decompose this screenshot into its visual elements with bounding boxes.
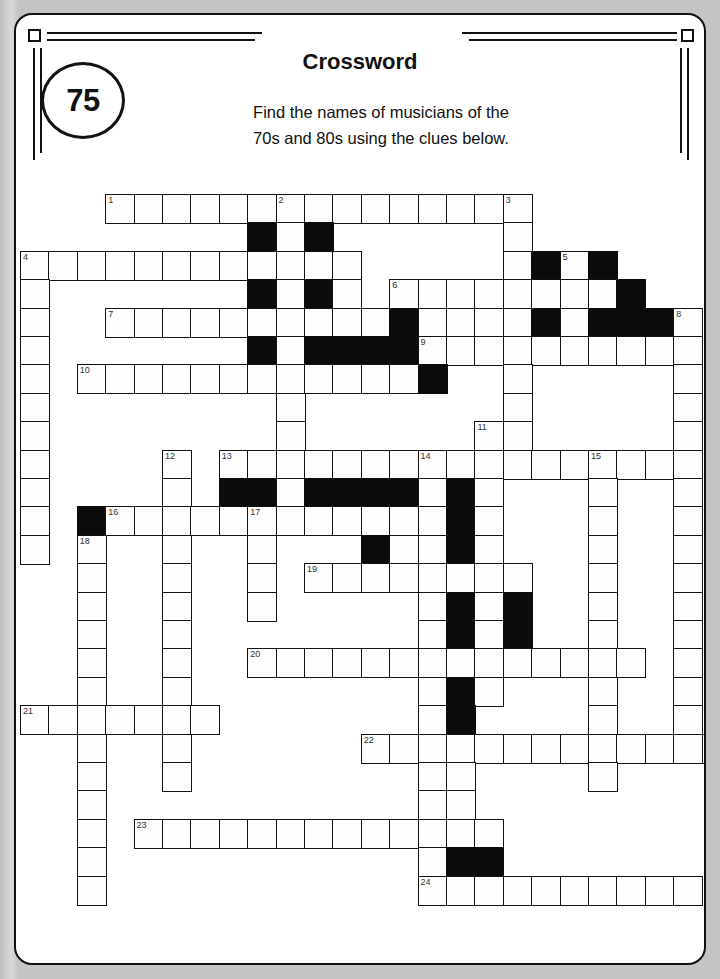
grid-cell[interactable] (474, 279, 504, 309)
grid-cell[interactable] (418, 478, 448, 508)
grid-cell[interactable] (276, 222, 306, 252)
grid-cell[interactable] (332, 563, 362, 593)
grid-cell[interactable] (332, 308, 362, 338)
grid-cell[interactable] (77, 790, 107, 820)
grid-cell[interactable] (645, 336, 675, 366)
grid-cell[interactable] (588, 734, 618, 764)
grid-cell[interactable] (190, 705, 220, 735)
grid-cell[interactable] (219, 364, 249, 394)
grid-cell[interactable] (531, 450, 561, 480)
grid-cell[interactable] (162, 194, 192, 224)
grid-cell[interactable] (77, 251, 107, 281)
grid-cell[interactable] (474, 194, 504, 224)
grid-cell[interactable]: 1 (105, 194, 135, 224)
grid-cell[interactable] (332, 194, 362, 224)
grid-cell[interactable] (276, 819, 306, 849)
grid-cell[interactable] (474, 478, 504, 508)
grid-cell[interactable] (503, 563, 533, 593)
grid-cell[interactable] (673, 563, 703, 593)
grid-cell[interactable] (389, 563, 419, 593)
grid-cell[interactable]: 5 (560, 251, 590, 281)
grid-cell[interactable] (389, 819, 419, 849)
grid-cell[interactable] (276, 506, 306, 536)
grid-cell[interactable] (20, 450, 50, 480)
grid-cell[interactable] (418, 705, 448, 735)
grid-cell[interactable] (474, 506, 504, 536)
grid-cell[interactable] (474, 648, 504, 678)
grid-cell[interactable] (474, 450, 504, 480)
grid-cell[interactable] (418, 648, 448, 678)
grid-cell[interactable] (304, 506, 334, 536)
grid-cell[interactable] (247, 308, 277, 338)
grid-cell[interactable] (474, 535, 504, 565)
grid-cell[interactable] (20, 421, 50, 451)
grid-cell[interactable] (190, 506, 220, 536)
grid-cell[interactable] (389, 535, 419, 565)
grid-cell[interactable] (418, 819, 448, 849)
grid-cell[interactable]: 9 (418, 336, 448, 366)
grid-cell[interactable] (418, 762, 448, 792)
grid-cell[interactable] (418, 677, 448, 707)
grid-cell[interactable] (134, 364, 164, 394)
grid-cell[interactable] (304, 364, 334, 394)
grid-cell[interactable] (134, 506, 164, 536)
grid-cell[interactable] (219, 308, 249, 338)
grid-cell[interactable] (673, 592, 703, 622)
grid-cell[interactable] (446, 194, 476, 224)
grid-cell[interactable] (190, 308, 220, 338)
grid-cell[interactable] (673, 648, 703, 678)
grid-cell[interactable] (361, 364, 391, 394)
grid-cell[interactable] (673, 393, 703, 423)
grid-cell[interactable] (190, 364, 220, 394)
grid-cell[interactable] (531, 734, 561, 764)
grid-cell[interactable] (446, 648, 476, 678)
grid-cell[interactable] (588, 592, 618, 622)
grid-cell[interactable] (588, 478, 618, 508)
grid-cell[interactable] (474, 308, 504, 338)
grid-cell[interactable] (673, 450, 703, 480)
grid-cell[interactable] (503, 450, 533, 480)
grid-cell[interactable] (304, 308, 334, 338)
grid-cell[interactable] (503, 734, 533, 764)
grid-cell[interactable] (418, 563, 448, 593)
grid-cell[interactable] (673, 620, 703, 650)
grid-cell[interactable] (361, 308, 391, 338)
grid-cell[interactable] (162, 364, 192, 394)
grid-cell[interactable] (418, 620, 448, 650)
grid-cell[interactable] (332, 251, 362, 281)
grid-cell[interactable] (474, 819, 504, 849)
grid-cell[interactable] (20, 279, 50, 309)
grid-cell[interactable] (20, 506, 50, 536)
grid-cell[interactable] (588, 677, 618, 707)
grid-cell[interactable] (560, 876, 590, 906)
grid-cell[interactable] (162, 535, 192, 565)
grid-cell[interactable] (446, 876, 476, 906)
grid-cell[interactable] (332, 819, 362, 849)
grid-cell[interactable] (531, 876, 561, 906)
grid-cell[interactable] (247, 251, 277, 281)
grid-cell[interactable] (560, 734, 590, 764)
grid-cell[interactable] (162, 478, 192, 508)
grid-cell[interactable] (361, 194, 391, 224)
grid-cell[interactable]: 12 (162, 450, 192, 480)
grid-cell[interactable] (276, 450, 306, 480)
grid-cell[interactable]: 6 (389, 279, 419, 309)
grid-cell[interactable] (673, 364, 703, 394)
grid-cell[interactable] (503, 279, 533, 309)
grid-cell[interactable] (332, 364, 362, 394)
grid-cell[interactable] (162, 819, 192, 849)
grid-cell[interactable] (77, 620, 107, 650)
grid-cell[interactable] (247, 194, 277, 224)
grid-cell[interactable] (673, 705, 703, 735)
grid-cell[interactable] (219, 251, 249, 281)
grid-cell[interactable] (162, 308, 192, 338)
grid-cell[interactable] (389, 648, 419, 678)
grid-cell[interactable] (702, 734, 706, 764)
grid-cell[interactable] (616, 734, 646, 764)
grid-cell[interactable] (105, 705, 135, 735)
grid-cell[interactable] (645, 876, 675, 906)
grid-cell[interactable] (77, 648, 107, 678)
grid-cell[interactable] (162, 648, 192, 678)
grid-cell[interactable] (77, 592, 107, 622)
grid-cell[interactable] (503, 364, 533, 394)
